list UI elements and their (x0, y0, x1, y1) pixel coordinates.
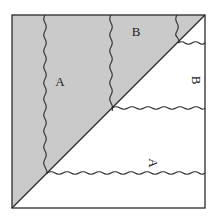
wavy-horizontal-top (178, 42, 205, 45)
wavy-horizontal-middle (112, 107, 205, 110)
wavy-horizontal-bottom (47, 172, 205, 175)
label-bottom-a: A (146, 158, 161, 168)
label-top-b: B (132, 24, 141, 39)
diagram-canvas: B A B A (0, 0, 217, 218)
label-right-b: B (189, 76, 204, 85)
label-left-a: A (55, 74, 65, 89)
